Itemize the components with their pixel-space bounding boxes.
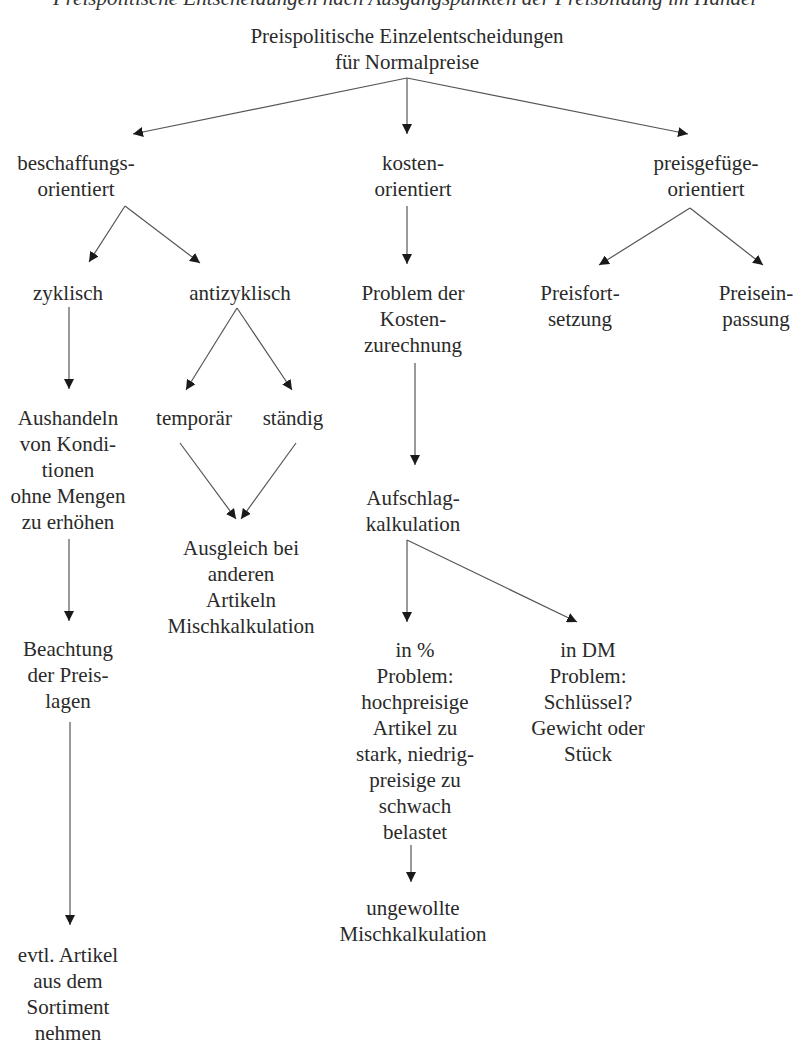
arrow-temporaer-to-ausgleich [180,443,236,519]
node-line: Sortiment [18,994,118,1020]
node-kostenorientiert: kosten- orientiert [375,150,452,202]
node-line: kosten- [375,150,452,176]
node-line: belastet [356,819,474,845]
node-line: Problem: [531,663,645,689]
node-evtl-artikel-entfernen: evtl. Artikel aus dem Sortiment nehmen [18,942,118,1044]
node-root: Preispolitische Einzelentscheidungen für… [250,23,563,75]
node-line: Stück [531,741,645,767]
node-line: Problem der [361,280,464,306]
node-line: für Normalpreise [250,49,563,75]
node-line: setzung [540,306,619,332]
node-beachtung-preislagen: Beachtung der Preis- lagen [23,636,113,714]
node-line: orientiert [17,176,134,202]
node-line: aus dem [18,968,118,994]
node-line: preisgefüge- [654,150,759,176]
node-line: Artikeln [168,587,315,613]
node-line: Gewicht oder [531,715,645,741]
node-line: lagen [23,688,113,714]
node-line: ungewollte [340,895,487,921]
node-line: schwach [356,793,474,819]
node-line: Aushandeln [11,405,126,431]
node-line: tionen [11,457,126,483]
arrow-beschaffung-to-antizyklisch [125,206,200,263]
arrow-aufschlag-to-dm [407,540,577,622]
node-line: stark, niedrig- [356,741,474,767]
arrow-staendig-to-ausgleich [241,443,296,519]
node-problem-kostenzurechnung: Problem der Kosten- zurechnung [361,280,464,358]
node-line: orientiert [375,176,452,202]
node-temporaer: temporär [156,405,232,431]
node-line: evtl. Artikel [18,942,118,968]
node-line: kalkulation [366,511,460,537]
arrow-preisgefuege-to-einpassung [690,208,763,265]
node-beschaffungsorientiert: beschaffungs- orientiert [17,150,134,202]
node-line: ständig [263,405,324,431]
arrow-antizyklisch-to-temporaer [186,308,237,390]
node-line: zyklisch [33,280,103,306]
node-line: zu erhöhen [11,509,126,535]
node-line: Problem: [356,663,474,689]
arrow-antizyklisch-to-staendig [237,308,292,390]
node-line: orientiert [654,176,759,202]
node-preisgefuegeorientiert: preisgefüge- orientiert [654,150,759,202]
arrow-beschaffung-to-zyklisch [89,206,125,262]
node-line: nehmen [18,1020,118,1044]
node-aufschlagkalkulation: Aufschlag- kalkulation [366,485,460,537]
node-line: ohne Mengen [11,483,126,509]
node-line: von Kondi- [11,431,126,457]
node-line: Mischkalkulation [168,613,315,639]
node-line: antizyklisch [189,280,290,306]
node-line: anderen [168,561,315,587]
arrow-root-to-preisgefuege [407,78,688,134]
node-in-prozent: in % Problem: hochpreisige Artikel zu st… [356,637,474,845]
node-line: Preispolitische Einzelentscheidungen [250,23,563,49]
node-line: Preisfort- [540,280,619,306]
node-line: Artikel zu [356,715,474,741]
node-staendig: ständig [263,405,324,431]
arrow-preisgefuege-to-fortsetzung [599,208,690,265]
node-line: hochpreisige [356,689,474,715]
node-line: Mischkalkulation [340,921,487,947]
node-preiseinpassung: Preisein- passung [719,280,794,332]
node-line: in % [356,637,474,663]
node-line: preisige zu [356,767,474,793]
node-line: beschaffungs- [17,150,134,176]
arrow-root-to-beschaffung [133,78,407,134]
node-preisfortsetzung: Preisfort- setzung [540,280,619,332]
node-ungewollte-mischkalkulation: ungewollte Mischkalkulation [340,895,487,947]
node-line: Beachtung [23,636,113,662]
node-line: temporär [156,405,232,431]
node-line: Kosten- [361,306,464,332]
node-zyklisch: zyklisch [33,280,103,306]
node-line: Aufschlag- [366,485,460,511]
node-line: Schlüssel? [531,689,645,715]
node-ausgleich-mischkalkulation: Ausgleich bei anderen Artikeln Mischkalk… [168,535,315,639]
node-line: Ausgleich bei [168,535,315,561]
node-line: passung [719,306,794,332]
node-in-dm: in DM Problem: Schlüssel? Gewicht oder S… [531,637,645,767]
node-line: in DM [531,637,645,663]
node-line: zurechnung [361,332,464,358]
node-line: Preisein- [719,280,794,306]
node-line: der Preis- [23,662,113,688]
node-aushandeln: Aushandeln von Kondi- tionen ohne Mengen… [11,405,126,535]
node-antizyklisch: antizyklisch [189,280,290,306]
